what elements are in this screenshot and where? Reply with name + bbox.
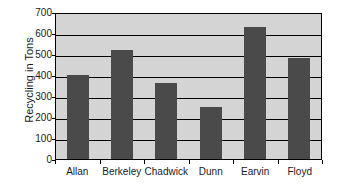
bar-slot: [144, 14, 188, 159]
y-tick-label: 600: [35, 29, 52, 39]
x-label-berkeley: Berkeley: [100, 165, 145, 179]
x-label-floyd: Floyd: [278, 165, 323, 179]
bar-allan[interactable]: [67, 75, 89, 159]
x-tick-mark: [322, 160, 323, 164]
bar-slot: [277, 14, 321, 159]
bars-layer: [56, 14, 321, 159]
y-tick-label: 100: [35, 134, 52, 144]
bar-floyd[interactable]: [288, 58, 310, 159]
y-tick-label: 500: [35, 50, 52, 60]
x-label-allan: Allan: [55, 165, 100, 179]
bar-chadwick[interactable]: [155, 83, 177, 159]
x-tick-mark: [233, 160, 234, 164]
bar-earvin[interactable]: [244, 27, 266, 159]
x-tick-mark: [278, 160, 279, 164]
y-tick-label: 300: [35, 92, 52, 102]
y-tick-label: 700: [35, 8, 52, 18]
x-label-dunn: Dunn: [189, 165, 234, 179]
x-label-chadwick: Chadwick: [144, 165, 189, 179]
y-axis-tick-labels: 0100200300400500600700: [34, 13, 55, 160]
bar-slot: [233, 14, 277, 159]
bar-slot: [189, 14, 233, 159]
x-tick-mark: [144, 160, 145, 164]
bar-dunn[interactable]: [200, 107, 222, 160]
bar-slot: [100, 14, 144, 159]
bar-berkeley[interactable]: [111, 50, 133, 159]
y-tick-label: 200: [35, 113, 52, 123]
x-tick-mark: [55, 160, 56, 164]
x-tick-mark: [189, 160, 190, 164]
x-axis-category-labels: AllanBerkeleyChadwickDunnEarvinFloyd: [55, 165, 322, 179]
x-axis-tick-marks: [55, 160, 322, 164]
y-tick-label: 400: [35, 71, 52, 81]
x-tick-mark: [100, 160, 101, 164]
plot-area: [55, 13, 322, 160]
x-label-earvin: Earvin: [233, 165, 278, 179]
bar-slot: [56, 14, 100, 159]
bar-chart-figure: Recycling in Tons 0100200300400500600700…: [0, 0, 343, 193]
